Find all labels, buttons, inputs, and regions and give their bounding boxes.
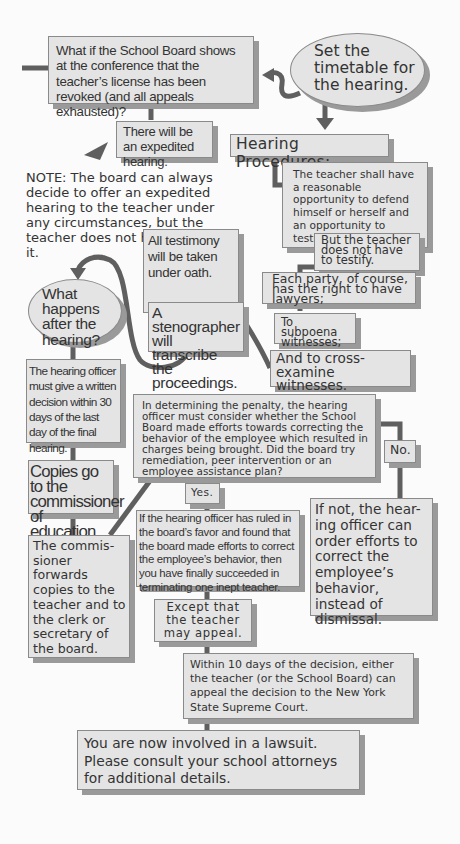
copies-commissioner-box: Copies go to the commissioner of educati… — [28, 460, 114, 514]
written-decision-text: The hearing officer must give a written … — [29, 364, 116, 455]
if-not-text: If not, the hear-ing officer can order e… — [315, 501, 421, 627]
no-label: No. — [390, 442, 411, 457]
expedited-hearing-box: There will be an expedited hearing. — [116, 121, 213, 158]
if-not-box: If not, the hear-ing officer can order e… — [310, 498, 433, 616]
top-question-box: What if the School Board shows at the co… — [48, 36, 254, 104]
commissioner-forwards-text: The commis-sioner forwards copies to the… — [33, 538, 126, 656]
commissioner-forwards-box: The commis-sioner forwards copies to the… — [28, 535, 130, 658]
subpoena-text: To subpoena witnesses; — [281, 315, 341, 349]
may-appeal-text: Except that the teacher may appeal. — [164, 600, 243, 640]
cross-examine-text: And to cross-examine witnesses. — [276, 350, 365, 393]
lawyers-box: Each party, of course, has the right to … — [262, 272, 416, 304]
testimony-oath-box: All testimony will be taken under oath. — [143, 229, 239, 313]
yes-label: Yes. — [191, 486, 213, 498]
set-timetable-oval: Set the timetable for the hearing. — [290, 33, 425, 107]
testimony-oath-text: All testimony will be taken under oath. — [148, 233, 219, 280]
written-decision-box: The hearing officer must give a written … — [26, 359, 121, 443]
yes-box: Yes. — [185, 483, 220, 504]
cross-examine-box: And to cross-examine witnesses. — [270, 350, 411, 387]
what-happens-oval: What happens after the hearing? — [28, 279, 122, 343]
subpoena-box: To subpoena witnesses; — [274, 313, 356, 344]
penalty-question-text: In determining the penalty, the hearing … — [142, 399, 368, 477]
ten-days-appeal-text: Within 10 days of the decision, either t… — [190, 658, 396, 714]
no-box: No. — [384, 440, 416, 463]
ten-days-appeal-box: Within 10 days of the decision, either t… — [183, 653, 414, 719]
what-happens-text: What happens after the hearing? — [42, 285, 100, 348]
lawsuit-text: You are now involved in a lawsuit. Pleas… — [84, 735, 337, 786]
not-testify-text: But the teacher does not have to testify… — [321, 233, 411, 267]
ruled-favor-text: If the hearing officer has ruled in the … — [139, 512, 294, 593]
hearing-procedures-title-box: Hearing Procedures: — [230, 134, 389, 157]
penalty-question-box: In determining the penalty, the hearing … — [133, 394, 376, 478]
ruled-favor-box: If the hearing officer has ruled in the … — [136, 510, 300, 587]
stenographer-box: A stenographer will transcribe the proce… — [148, 302, 244, 352]
stenographer-text: A stenographer will transcribe the proce… — [152, 304, 240, 391]
not-testify-box: But the teacher does not have to testify… — [314, 233, 420, 271]
may-appeal-box: Except that the teacher may appeal. — [154, 599, 252, 642]
lawyers-text: Each party, of course, has the right to … — [272, 271, 408, 306]
lawsuit-box: You are now involved in a lawsuit. Pleas… — [77, 730, 360, 790]
set-timetable-text: Set the timetable for the hearing. — [314, 42, 415, 94]
